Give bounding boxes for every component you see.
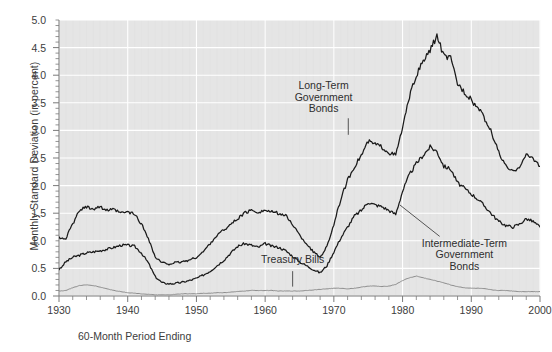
- annotation-line: Intermediate-Term: [422, 238, 507, 250]
- annotation-intermediate-term-government-bonds: Intermediate-TermGovernmentBonds: [422, 238, 507, 273]
- annotation-line: Treasury Bills: [261, 254, 324, 266]
- annotation-line: Long-Term: [295, 80, 353, 92]
- plot-area: [0, 0, 552, 352]
- annotation-line: Bonds: [422, 261, 507, 273]
- annotation-treasury-bills: Treasury Bills: [261, 254, 324, 266]
- annotation-long-term-government-bonds: Long-TermGovernmentBonds: [295, 80, 353, 115]
- annotation-line: Bonds: [295, 103, 353, 115]
- chart-figure: Monthly Standard Deviation (in percent) …: [0, 0, 552, 352]
